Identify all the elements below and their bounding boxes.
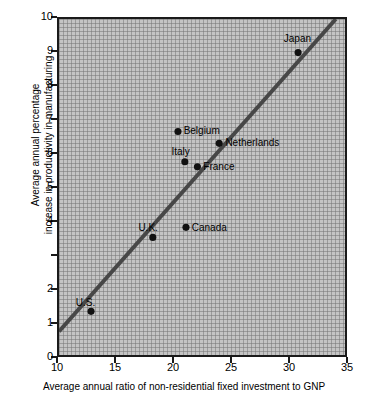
data-point-marker <box>194 163 201 170</box>
point-label-canada: Canada <box>192 223 227 233</box>
data-point-marker <box>174 128 181 135</box>
point-label-belgium: Belgium <box>184 126 220 136</box>
point-label-u-k: U.K. <box>138 223 157 233</box>
x-axis-title: Average annual ratio of non-residential … <box>0 381 368 393</box>
y-axis-title-line-1: Average annual percentage <box>29 0 42 295</box>
plot-area <box>57 17 347 357</box>
trendline-segment <box>59 19 336 331</box>
point-label-netherlands: Netherlands <box>225 138 279 148</box>
point-label-japan: Japan <box>284 34 311 44</box>
data-markers <box>87 49 301 315</box>
x-tick-label: 35 <box>341 362 353 373</box>
x-tick-label: 30 <box>283 362 295 373</box>
point-label-france: France <box>203 162 234 172</box>
y-tick-label: 1 <box>35 317 53 328</box>
y-axis-title-line-2: increase in productivity in manufacturin… <box>42 0 55 295</box>
data-point-marker <box>87 308 94 315</box>
x-tick-label: 15 <box>109 362 121 373</box>
point-label-u-s: U.S. <box>76 298 95 308</box>
scatter-chart-figure: U.S.U.K.CanadaItalyFranceBelgiumNetherla… <box>0 0 368 403</box>
data-point-marker <box>295 49 302 56</box>
data-point-marker <box>149 234 156 241</box>
data-point-marker <box>182 224 189 231</box>
y-axis-title: Average annual percentage increase in pr… <box>29 0 55 295</box>
data-point-marker <box>181 158 188 165</box>
data-point-marker <box>216 140 223 147</box>
trendline <box>59 19 336 331</box>
x-tick-label: 20 <box>167 362 179 373</box>
plot-svg <box>59 19 345 355</box>
x-axis-tick-labels: 101520253035 <box>0 362 368 378</box>
x-tick-label: 25 <box>225 362 237 373</box>
point-label-italy: Italy <box>171 147 189 157</box>
x-tick-label: 10 <box>51 362 63 373</box>
